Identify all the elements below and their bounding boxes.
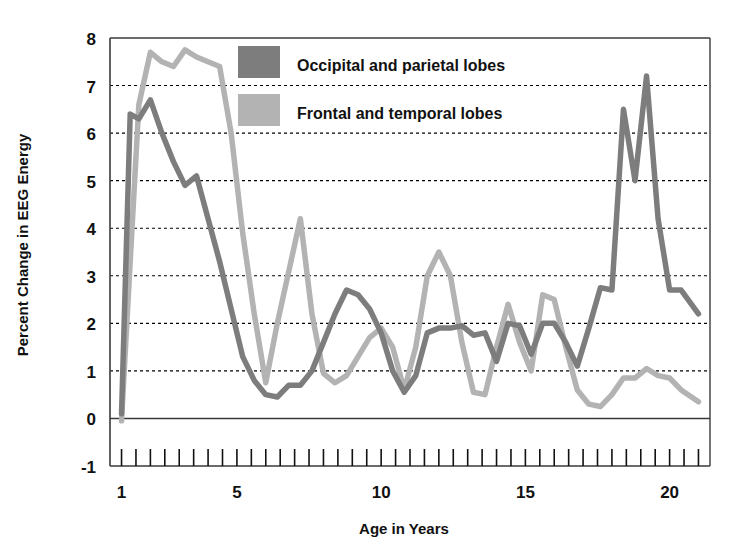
- y-axis-tick-labels: -1012345678: [81, 30, 97, 477]
- legend-entry-frontal-temporal: Frontal and temporal lobes: [238, 94, 502, 126]
- y-tick-label-5: 5: [87, 173, 96, 192]
- legend-label-occipital-parietal: Occipital and parietal lobes: [297, 57, 505, 74]
- legend-swatch-frontal-temporal: [238, 94, 280, 126]
- y-tick-label-3: 3: [87, 268, 96, 287]
- y-axis-title: Percent Change in EEG Energy: [14, 133, 31, 356]
- y-tick-label-0: 0: [87, 410, 96, 429]
- x-axis-tick-marks: [122, 449, 699, 466]
- y-tick-label-1: 1: [87, 363, 96, 382]
- chart-svg: -1012345678 15101520 Age in Years Percen…: [0, 0, 738, 557]
- x-axis-tick-labels: 15101520: [117, 483, 679, 502]
- y-tick-label-7: 7: [87, 78, 96, 97]
- axis-lines: [110, 38, 710, 466]
- y-tick-label--1: -1: [81, 458, 96, 477]
- legend-entry-occipital-parietal: Occipital and parietal lobes: [238, 46, 505, 78]
- y-tick-label-6: 6: [87, 125, 96, 144]
- x-tick-label-20: 20: [660, 483, 679, 502]
- x-tick-label-15: 15: [516, 483, 535, 502]
- x-axis-title: Age in Years: [359, 520, 449, 537]
- y-tick-label-8: 8: [87, 30, 96, 49]
- legend-label-frontal-temporal: Frontal and temporal lobes: [297, 105, 502, 122]
- eeg-energy-line-chart: -1012345678 15101520 Age in Years Percen…: [0, 0, 738, 557]
- y-tick-label-4: 4: [87, 220, 97, 239]
- legend-swatch-occipital-parietal: [238, 46, 280, 78]
- x-tick-label-5: 5: [232, 483, 241, 502]
- y-tick-label-2: 2: [87, 315, 96, 334]
- x-tick-label-1: 1: [117, 483, 126, 502]
- x-tick-label-10: 10: [372, 483, 391, 502]
